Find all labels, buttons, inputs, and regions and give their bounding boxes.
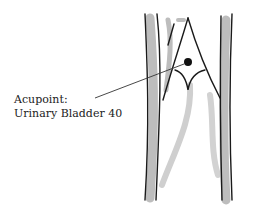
- leader-line: [95, 64, 184, 98]
- acupoint-label-title: Acupoint:: [14, 93, 68, 107]
- shading: [150, 18, 226, 200]
- acupoint-label-name: Urinary Bladder 40: [14, 107, 122, 121]
- acupoint-marker: [184, 58, 192, 66]
